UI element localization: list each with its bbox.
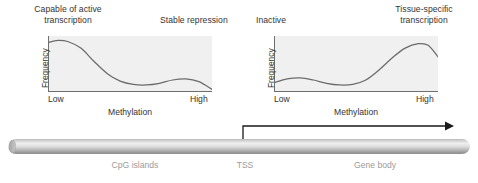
gene-schematic: CpG islands TSS Gene body <box>0 120 478 183</box>
x-tick-low-gene-body: Low <box>274 94 290 104</box>
gene-body-cylinder <box>8 139 470 154</box>
x-tick-high-cpg-islands: High <box>190 94 208 104</box>
callout-capable-of-active-transcription: Capable of active transcription <box>8 4 128 25</box>
region-label-tss: TSS <box>210 160 280 170</box>
x-axis-label-cpg-islands: Methylation <box>48 107 212 117</box>
x-axis-gene-body <box>274 91 438 92</box>
chart-cpg-islands <box>48 36 212 92</box>
chart-gene-body <box>274 36 438 92</box>
y-axis-label-cpg-islands: Frequency <box>40 48 50 88</box>
region-label-cpg-islands: CpG islands <box>60 160 210 170</box>
gene-cylinder-end-cap <box>9 140 16 153</box>
callout-inactive: Inactive <box>256 15 316 26</box>
x-axis-cpg-islands <box>48 91 212 92</box>
region-label-gene-body: Gene body <box>300 160 450 170</box>
x-axis-label-gene-body: Methylation <box>274 107 438 117</box>
callout-stable-repression: Stable repression <box>160 15 256 26</box>
figure-canvas: Capable of active transcription Stable r… <box>0 0 478 183</box>
x-tick-low-cpg-islands: Low <box>48 94 64 104</box>
x-tick-high-gene-body: High <box>416 94 434 104</box>
curve-cpg-islands <box>48 36 212 92</box>
callout-tissue-specific-transcription: Tissue-specific transcription <box>372 4 476 25</box>
curve-gene-body <box>274 36 438 92</box>
y-axis-label-gene-body: Frequency <box>266 48 276 88</box>
